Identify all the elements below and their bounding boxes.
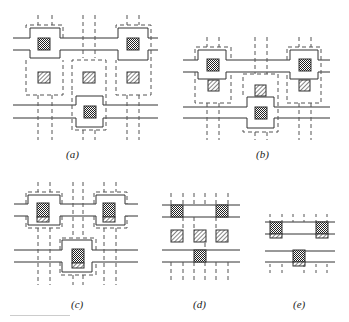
via-pad [171,230,183,242]
contact-pad [299,59,311,71]
via-pad [83,72,95,83]
via-pad [299,80,310,91]
contact-pad [293,250,305,262]
via-pad [127,72,139,83]
contact-pad [127,38,139,50]
panel-b [183,37,330,140]
contact-pad [207,59,219,71]
panel-e [265,214,335,274]
contact-pad [194,250,206,262]
contact-pad [38,38,50,50]
contact-pad [84,106,96,118]
panel-label-a: (a) [66,148,79,160]
via-pad [38,72,50,83]
contact-pad [103,203,115,217]
contact-pad [72,249,84,263]
panel-c [14,182,138,285]
contact-pad [316,222,328,234]
via-pad [255,85,266,96]
via-pad [216,230,228,242]
via-pad [316,234,328,238]
via-pad [270,234,282,238]
panel-d [162,193,240,280]
figure-canvas: (a) (b) (c) (d) (e) [0,0,349,322]
panel-label-b: (b) [256,148,269,160]
contact-pad [37,203,49,217]
panel-label-d: (d) [193,298,206,310]
via-pad [293,262,305,266]
via-pad [72,263,84,268]
via-pad [37,217,49,222]
via-pad [208,80,219,91]
contact-pad [255,107,267,119]
contact-pad [216,205,228,217]
contact-pad [270,222,282,234]
panel-label-c: (c) [71,298,83,310]
via-pad [194,230,206,242]
caption-rule [10,315,70,316]
panel-label-e: (e) [293,298,305,310]
contact-pad [171,205,183,217]
panel-a [13,15,158,140]
via-pad [103,217,115,222]
